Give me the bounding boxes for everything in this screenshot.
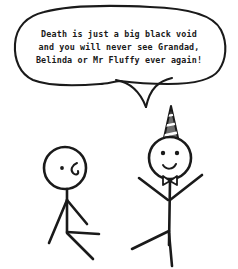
right-figure-right-eye [175,151,179,155]
right-figure-left-eye [161,151,165,155]
comic-panel: Death is just a big black void and you w… [0,0,238,269]
right-figure-head [149,137,191,179]
left-figure-head [44,147,86,189]
comic-illustration: Death is just a big black void and you w… [0,0,238,269]
left-figure-eye [60,166,64,170]
speech-line-2: and you will never see Grandad, [39,42,200,52]
speech-line-3: Belinda or Mr Fluffy ever again! [36,55,202,65]
speech-line-1: Death is just a big black void [41,29,197,39]
